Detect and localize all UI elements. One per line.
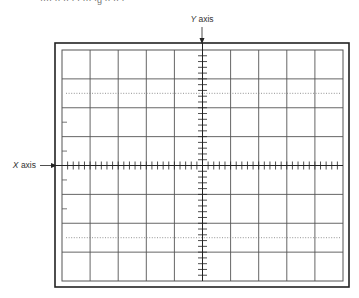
x-axis (55, 162, 343, 170)
x-axis-label: X axis (12, 160, 36, 170)
graticule-diagram: ···· ·· ·· · · ··· ·g ·· ·· · Y axis X a… (0, 0, 359, 298)
x-axis-label-word: axis (19, 160, 36, 170)
caption-fragment: ···· ·· ·· · · ··· ·g ·· ·· · (40, 0, 124, 5)
y-axis-label-word: axis (196, 14, 213, 24)
y-axis (198, 43, 207, 281)
x-axis-arrowhead-icon (51, 163, 57, 168)
y-axis-label: Y axis (190, 14, 213, 24)
